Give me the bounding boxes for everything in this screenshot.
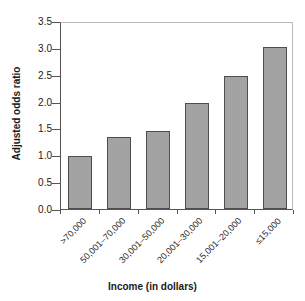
y-axis-tick-label: 1.5: [6, 123, 52, 134]
y-axis-tick-label: 3.5: [6, 16, 52, 27]
x-axis-tick-mark: [99, 210, 100, 214]
x-axis-tick-mark: [254, 210, 255, 214]
bar: [263, 47, 287, 209]
plot-area: [60, 22, 293, 210]
bar: [68, 156, 92, 209]
x-axis-tick-mark: [60, 210, 61, 214]
x-axis-tick-mark: [138, 210, 139, 214]
y-axis-tick-label: 3.0: [6, 43, 52, 54]
x-axis-title: Income (in dollars): [0, 281, 305, 292]
y-axis-tick-mark: [52, 183, 60, 184]
y-axis-tick-label: 0.5: [6, 177, 52, 188]
y-axis-tick-mark: [52, 76, 60, 77]
y-axis-tick-label: 0.0: [6, 204, 52, 215]
y-axis-tick-mark: [52, 210, 60, 211]
y-axis-tick-mark: [52, 129, 60, 130]
y-axis-tick-mark: [52, 103, 60, 104]
bar-chart-figure: Adjusted odds ratio 0.00.51.01.52.02.53.…: [0, 0, 305, 301]
y-axis-tick-mark: [52, 22, 60, 23]
bar: [146, 131, 170, 209]
x-axis-tick-mark: [293, 210, 294, 214]
x-axis-category-label: ≤15,000: [253, 216, 283, 246]
x-axis-tick-mark: [177, 210, 178, 214]
y-axis-tick-mark: [52, 49, 60, 50]
y-axis-tick-mark: [52, 156, 60, 157]
y-axis-tick-label: 2.5: [6, 70, 52, 81]
bar: [107, 137, 131, 209]
y-axis-tick-label: 2.0: [6, 97, 52, 108]
bar: [224, 76, 248, 209]
x-axis-category-label: >70,000: [58, 216, 88, 246]
bar: [185, 103, 209, 209]
x-axis-tick-mark: [215, 210, 216, 214]
y-axis-tick-label: 1.0: [6, 150, 52, 161]
